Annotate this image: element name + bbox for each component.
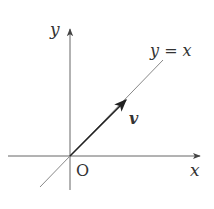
vector-v (70, 100, 126, 156)
origin-label: O (76, 161, 89, 180)
x-axis-label: x (190, 160, 200, 180)
line-label: y = x (149, 41, 192, 60)
coordinate-diagram: y y = x v O x (0, 0, 214, 209)
y-axis-label: y (49, 19, 60, 39)
vector-label: v (129, 109, 139, 128)
